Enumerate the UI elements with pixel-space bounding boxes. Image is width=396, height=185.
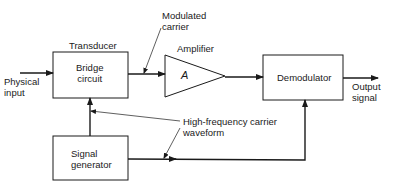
transducer-body: Bridge circuit [76, 62, 103, 84]
amplifier-gain-symbol: A [181, 70, 188, 81]
modulated-carrier-label: Modulated carrier [162, 10, 206, 32]
carrier-waveform-leader-upper [91, 111, 180, 121]
physical-input-label: Physical input [4, 76, 39, 98]
modulated-carrier-leader [144, 28, 161, 73]
carrier-waveform-leader-lower [164, 128, 180, 158]
demodulator-body: Demodulator [277, 72, 331, 83]
output-signal-label: Output signal [352, 81, 381, 103]
amplifier-title: Amplifier [177, 43, 214, 54]
carrier-waveform-label: High-frequency carrier waveform [183, 116, 277, 138]
amplifier-triangle [165, 55, 225, 97]
signal-generator-body: Signal generator [71, 148, 112, 170]
transducer-title: Transducer [69, 40, 117, 51]
